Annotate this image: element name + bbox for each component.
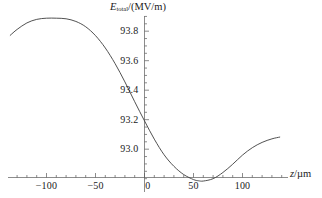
x-tick-label: −100 [27,180,67,191]
chart-figure: Etotal/(MV/m) z/µm −100−5005010093.093.2… [0,0,322,198]
x-axis-ticks [17,173,282,178]
y-tick-label: 93.4 [99,84,139,95]
y-tick-label: 93.8 [99,25,139,36]
y-axis-title: Etotal/(MV/m) [110,1,166,12]
y-axis-subscript: total [116,5,128,12]
y-tick-label: 93.0 [99,143,139,154]
x-tick-label: 50 [174,180,214,191]
plot-canvas [0,0,322,198]
x-tick-label: 100 [223,180,263,191]
x-tick-label: 0 [131,180,151,191]
y-tick-label: 93.2 [99,114,139,125]
axes-group [8,16,288,192]
x-axis-title: z/µm [290,168,311,179]
y-axis-ticks [145,16,150,178]
x-axis-unit: /µm [294,168,311,179]
y-tick-label: 93.6 [99,55,139,66]
x-tick-label: −50 [76,180,116,191]
y-axis-unit: /(MV/m) [128,1,166,12]
